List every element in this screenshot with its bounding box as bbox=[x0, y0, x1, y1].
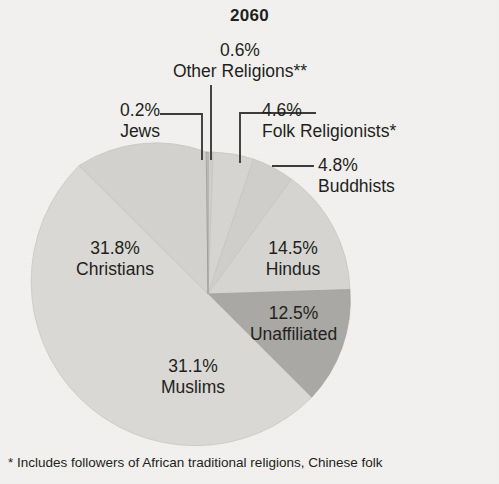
label-christians-name: Christians bbox=[50, 259, 180, 280]
label-buddhists: 4.8% Buddhists bbox=[318, 155, 488, 196]
chart-footnote: * Includes followers of African traditio… bbox=[8, 455, 496, 471]
label-christians: 31.8% Christians bbox=[50, 238, 180, 279]
label-jews: 0.2% Jews bbox=[50, 100, 160, 141]
label-folk-religionists-pct: 4.6% bbox=[262, 100, 492, 121]
label-hindus: 14.5% Hindus bbox=[243, 238, 343, 279]
label-hindus-name: Hindus bbox=[243, 259, 343, 280]
label-other-religions-name: Other Religions** bbox=[120, 61, 360, 82]
label-jews-pct: 0.2% bbox=[50, 100, 160, 121]
label-hindus-pct: 14.5% bbox=[243, 238, 343, 259]
label-folk-religionists-name: Folk Religionists* bbox=[262, 121, 492, 142]
label-other-religions: 0.6% Other Religions** bbox=[120, 40, 360, 81]
label-other-religions-pct: 0.6% bbox=[120, 40, 360, 61]
label-unaffiliated-name: Unaffiliated bbox=[231, 324, 356, 345]
label-muslims-name: Muslims bbox=[138, 377, 248, 398]
label-jews-name: Jews bbox=[50, 121, 160, 142]
label-unaffiliated: 12.5% Unaffiliated bbox=[231, 303, 356, 344]
label-buddhists-name: Buddhists bbox=[318, 176, 488, 197]
label-christians-pct: 31.8% bbox=[50, 238, 180, 259]
label-buddhists-pct: 4.8% bbox=[318, 155, 488, 176]
label-folk-religionists: 4.6% Folk Religionists* bbox=[262, 100, 492, 141]
label-muslims: 31.1% Muslims bbox=[138, 356, 248, 397]
label-muslims-pct: 31.1% bbox=[138, 356, 248, 377]
label-unaffiliated-pct: 12.5% bbox=[231, 303, 356, 324]
